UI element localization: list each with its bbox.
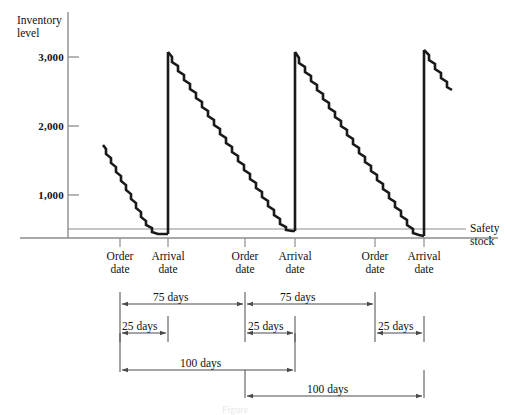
dimension-label-75-days-first: 75 days: [153, 291, 188, 303]
dimension-label-25-days-third: 25 days: [378, 320, 413, 332]
dimension-label-25-days-first: 25 days: [122, 320, 157, 332]
x-tick-label-arrival-2-line-1: Arrival: [265, 250, 325, 263]
y-tick-label-2000: 2,000: [28, 120, 64, 132]
dimension-label-25-days-second: 25 days: [248, 320, 283, 332]
x-tick-label-arrival-3-line-2: date: [394, 263, 454, 276]
dimension-label-100-days-first: 100 days: [180, 357, 221, 369]
x-tick-label-arrival-2: Arrival date: [265, 250, 325, 275]
y-axis-title: Inventory level: [17, 14, 62, 39]
x-tick-label-arrival-3: Arrival date: [394, 250, 454, 275]
dimension-label-100-days-second: 100 days: [307, 383, 348, 395]
x-tick-label-arrival-2-line-2: date: [265, 263, 325, 276]
x-tick-label-arrival-1: Arrival date: [138, 250, 198, 275]
figure-caption: Figure: [222, 404, 248, 415]
safety-stock-label: Safety stock: [470, 222, 499, 247]
y-tick-label-1000: 1,000: [28, 189, 64, 201]
x-tick-label-arrival-1-line-2: date: [138, 263, 198, 276]
y-axis-title-line-2: level: [17, 27, 62, 40]
safety-stock-label-line-2: stock: [470, 235, 499, 248]
y-tick-label-3000: 3,000: [28, 51, 64, 63]
x-tick-label-arrival-3-line-1: Arrival: [394, 250, 454, 263]
dimension-label-75-days-second: 75 days: [280, 291, 315, 303]
safety-stock-label-line-1: Safety: [470, 222, 499, 235]
inventory-level-curve: [103, 50, 452, 236]
y-axis-title-line-1: Inventory: [17, 14, 62, 27]
x-tick-label-arrival-1-line-1: Arrival: [138, 250, 198, 263]
